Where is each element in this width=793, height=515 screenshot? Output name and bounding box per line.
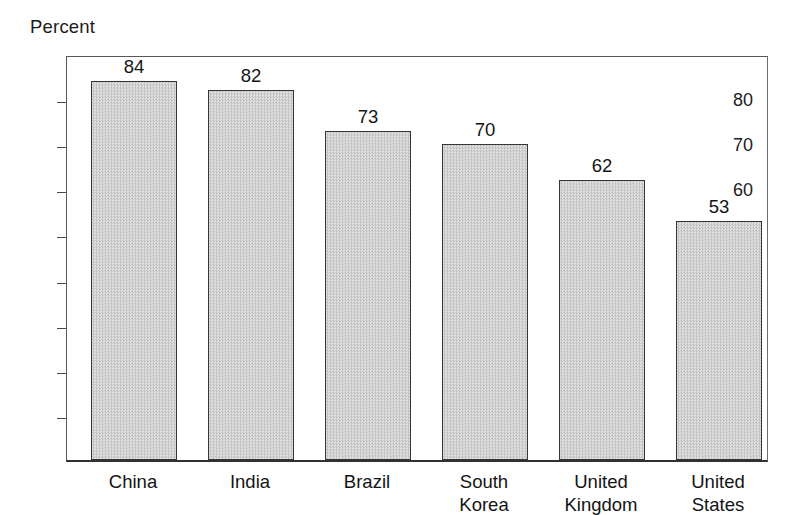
bar-value-label: 70 [442,119,528,141]
x-axis-category-label: Brazil [310,470,424,493]
bar [325,131,411,460]
bar-chart-figure: Percent 8070605040302010848273706253 Chi… [0,0,793,515]
bar [208,90,294,460]
x-axis-category-label: China [76,470,190,493]
y-axis-tick-label: 70 [733,135,753,156]
bar [91,81,177,460]
y-axis-tick-label: 80 [733,90,753,111]
y-axis-tick [57,102,66,103]
bar-value-label: 73 [325,106,411,128]
y-axis-title: Percent [30,16,95,38]
x-axis-category-label: United Kingdom [544,470,658,515]
x-axis-category-label: South Korea [427,470,541,515]
y-axis-tick [57,328,66,329]
bar-value-label: 62 [559,155,645,177]
y-axis-tick [57,237,66,238]
y-axis-tick [57,147,66,148]
bar [559,180,645,460]
y-axis-tick [57,283,66,284]
bar [442,144,528,460]
y-axis-tick [57,373,66,374]
y-axis-tick [57,192,66,193]
plot-area: 8070605040302010848273706253 [66,56,768,462]
bar-value-label: 82 [208,65,294,87]
x-axis-category-label: India [193,470,307,493]
bar [676,221,762,460]
bar-value-label: 84 [91,56,177,78]
y-axis-tick [57,418,66,419]
bar-value-label: 53 [676,196,762,218]
x-axis-category-label: United States [661,470,775,515]
